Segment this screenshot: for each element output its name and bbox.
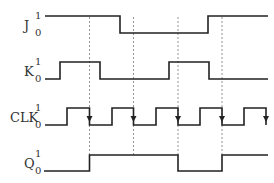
level-high-label-q: 1 [35, 148, 41, 159]
level-low-label-clk: 0 [35, 119, 41, 130]
level-high-label-j: 1 [35, 10, 41, 21]
falling-edge-arrow-icon [263, 116, 269, 122]
falling-edge-arrow-icon [87, 116, 93, 122]
level-low-label-j: 0 [35, 27, 41, 38]
level-low-label-q: 0 [35, 165, 41, 176]
falling-edge-arrow-icon [175, 116, 181, 122]
signal-k: K 1 0 [24, 56, 268, 84]
waveform-clk [45, 108, 266, 125]
signal-label-j: J [22, 18, 29, 33]
signal-label-k: K [24, 64, 34, 79]
falling-edge-arrows [87, 116, 270, 122]
level-high-label-k: 1 [35, 56, 41, 67]
waveform-j [45, 16, 268, 33]
signal-clk: CLK 1 0 [10, 102, 269, 130]
signal-q: Q 1 0 [24, 148, 268, 176]
signal-j: J 1 0 [22, 10, 268, 38]
timing-diagram: J 1 0 K 1 0 CLK 1 0 Q 1 0 [0, 0, 274, 183]
signal-label-q: Q [24, 156, 35, 171]
clock-edge-markers [90, 17, 223, 155]
waveform-q [44, 155, 268, 171]
level-high-label-clk: 1 [35, 102, 41, 113]
level-low-label-k: 0 [35, 73, 41, 84]
waveform-k [45, 62, 268, 79]
falling-edge-arrow-icon [219, 116, 225, 122]
falling-edge-arrow-icon [131, 116, 137, 122]
